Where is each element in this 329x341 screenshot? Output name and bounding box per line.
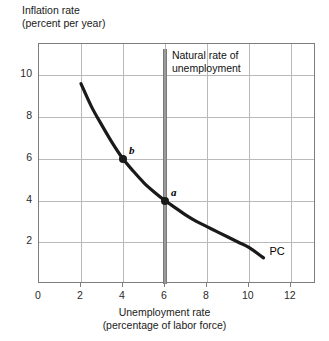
gridline-horizontal (39, 242, 314, 243)
gridline-vertical (291, 44, 292, 282)
x-tick-label: 2 (68, 289, 92, 301)
y-tick-label: 4 (10, 193, 32, 205)
x-tick-mark (164, 283, 165, 287)
y-axis-title-line1: Inflation rate (22, 4, 105, 17)
x-tick-mark (122, 283, 123, 287)
x-tick-mark (248, 283, 249, 287)
x-axis-title-line1: Unemployment rate (0, 306, 329, 319)
x-tick-label: 10 (236, 289, 260, 301)
phillips-curve-figure: Inflation rate (percent per year) ba Nat… (0, 0, 329, 341)
y-tick-label: 2 (10, 234, 32, 246)
gridline-vertical (249, 44, 250, 282)
x-tick-label: 0 (26, 289, 50, 301)
data-point-a (161, 197, 169, 205)
gridline-horizontal (39, 159, 314, 160)
natural-rate-label-line2: unemployment (172, 62, 241, 75)
data-point-label-b: b (129, 144, 135, 156)
data-point-b (119, 155, 127, 163)
y-tick-label: 6 (10, 151, 32, 163)
curve-label-pc: PC (270, 245, 285, 257)
x-axis-title-line2: (percentage of labor force) (0, 319, 329, 332)
natural-rate-label-line1: Natural rate of (172, 49, 241, 62)
data-point-label-a: a (171, 186, 177, 198)
natural-rate-annotation-label: Natural rate of unemployment (172, 49, 241, 74)
x-tick-mark (80, 283, 81, 287)
phillips-curve-path (81, 84, 264, 258)
gridline-horizontal (39, 201, 314, 202)
natural-rate-of-unemployment-bar (163, 49, 167, 284)
x-axis-title: Unemployment rate (percentage of labor f… (0, 306, 329, 332)
x-tick-label: 12 (278, 289, 302, 301)
y-axis-title-line2: (percent per year) (22, 17, 105, 30)
gridline-vertical (207, 44, 208, 282)
gridline-horizontal (39, 117, 314, 118)
gridline-vertical (81, 44, 82, 282)
x-tick-label: 8 (194, 289, 218, 301)
x-tick-label: 6 (152, 289, 176, 301)
y-tick-label: 8 (10, 109, 32, 121)
x-tick-label: 4 (110, 289, 134, 301)
gridline-vertical (123, 44, 124, 282)
gridline-horizontal (39, 75, 314, 76)
y-tick-label: 10 (10, 67, 32, 79)
x-tick-mark (290, 283, 291, 287)
x-tick-mark (206, 283, 207, 287)
y-axis-title: Inflation rate (percent per year) (22, 4, 105, 30)
